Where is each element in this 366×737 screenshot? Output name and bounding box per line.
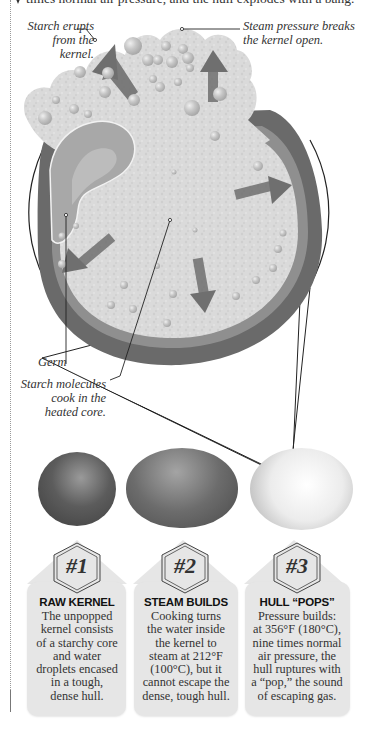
callout-starch-erupts: Starch erupts from the kernel.: [18, 19, 94, 61]
callout-germ: Germ: [38, 355, 66, 369]
raw-kernel-photo: [38, 452, 116, 526]
stage-1-number: #1: [52, 553, 102, 579]
stage-3-body: Pressure builds: at 356°F (180°C), nine …: [245, 610, 349, 703]
stage-1-body: The unpopped kernel consists of a starch…: [25, 610, 129, 703]
stage-1-title: RAW KERNEL: [22, 596, 132, 608]
steam-kernel-photo: [126, 448, 238, 528]
stage-2-body: Cooking turns the water inside the kerne…: [134, 610, 238, 703]
popped-kernel-photo: [250, 448, 353, 530]
stage-3-title: HULL “POPS”: [242, 596, 352, 608]
stage-2-number: #2: [160, 553, 210, 579]
stage-2-title: STEAM BUILDS: [131, 596, 241, 608]
stage-3-number: #3: [272, 553, 322, 579]
callout-steam-pressure: Steam pressure breaks the kernel open.: [243, 19, 366, 47]
margin-rule-solid: [10, 690, 11, 712]
callout-starch-molecules: Starch molecules cook in the heated core…: [18, 377, 106, 419]
